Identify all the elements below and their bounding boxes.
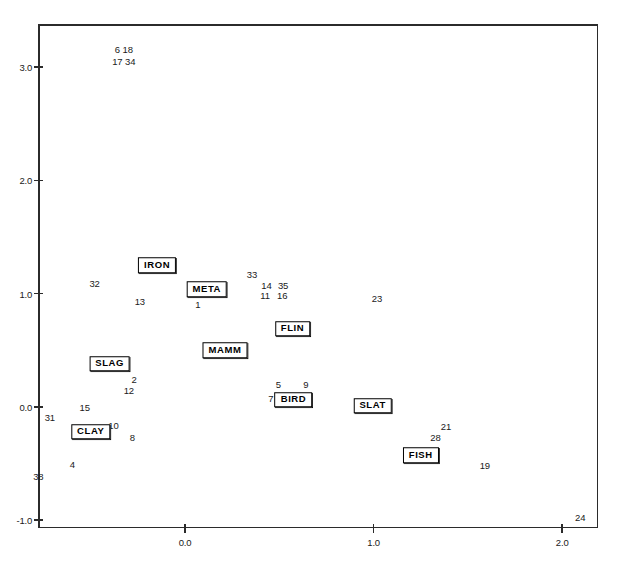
data-point-label: 33 bbox=[247, 268, 257, 279]
group-label-fish: FISH bbox=[403, 448, 439, 464]
group-label-slag: SLAG bbox=[89, 356, 130, 372]
group-label-flin: FLIN bbox=[275, 321, 311, 337]
y-tick-mark bbox=[34, 293, 43, 295]
y-tick-mark bbox=[34, 66, 43, 68]
group-label-mamm: MAMM bbox=[203, 343, 248, 359]
plot-frame: -1.00.01.02.03.0 0.01.02.0 6 1817 343213… bbox=[38, 24, 598, 528]
y-tick-label: 1.0 bbox=[2, 288, 32, 299]
group-label-clay: CLAY bbox=[71, 424, 110, 440]
x-axis-line bbox=[38, 527, 598, 529]
x-tick-label: 1.0 bbox=[367, 537, 380, 548]
data-point-label: 11 bbox=[260, 289, 270, 300]
data-point-label: 9 bbox=[303, 379, 308, 390]
data-point-label: 19 bbox=[480, 459, 490, 470]
scatter-plot: -1.00.01.02.03.0 0.01.02.0 6 1817 343213… bbox=[0, 0, 619, 561]
data-point-label: 5 bbox=[276, 379, 281, 390]
data-point-label: 4 bbox=[70, 458, 75, 469]
x-tick-mark bbox=[373, 524, 375, 533]
data-point-label: 7 bbox=[268, 393, 273, 404]
data-point-label: 38 bbox=[33, 470, 43, 481]
data-point-label: 17 34 bbox=[112, 55, 135, 66]
y-tick-label: 3.0 bbox=[2, 62, 32, 73]
x-tick-label: 2.0 bbox=[556, 537, 569, 548]
group-label-bird: BIRD bbox=[275, 392, 313, 408]
data-point-label: 8 bbox=[130, 432, 135, 443]
data-point-label: 16 bbox=[277, 289, 287, 300]
data-point-label: 24 bbox=[575, 512, 585, 523]
data-point-label: 23 bbox=[372, 293, 382, 304]
x-tick-mark bbox=[561, 524, 563, 533]
data-point-label: 13 bbox=[135, 296, 145, 307]
right-frame-line bbox=[597, 24, 599, 528]
group-label-meta: META bbox=[186, 281, 227, 297]
data-point-label: 31 bbox=[45, 411, 55, 422]
data-point-label: 21 bbox=[441, 421, 451, 432]
y-tick-mark bbox=[34, 406, 43, 408]
group-label-slat: SLAT bbox=[353, 398, 392, 414]
x-tick-mark bbox=[184, 524, 186, 533]
y-axis-line bbox=[38, 24, 40, 528]
y-tick-mark bbox=[34, 180, 43, 182]
data-point-label: 15 bbox=[80, 401, 90, 412]
data-point-label: 12 bbox=[124, 384, 134, 395]
y-tick-mark bbox=[34, 519, 43, 521]
x-tick-label: 0.0 bbox=[179, 537, 192, 548]
data-point-label: 2 bbox=[132, 373, 137, 384]
data-point-label: 1 bbox=[195, 298, 200, 309]
data-point-label: 6 18 bbox=[115, 44, 133, 55]
y-tick-label: 2.0 bbox=[2, 175, 32, 186]
data-point-label: 32 bbox=[89, 278, 99, 289]
group-label-iron: IRON bbox=[138, 257, 176, 273]
y-tick-label: -1.0 bbox=[2, 515, 32, 526]
data-point-label: 28 bbox=[430, 432, 440, 443]
top-frame-line bbox=[38, 24, 598, 26]
y-tick-label: 0.0 bbox=[2, 401, 32, 412]
